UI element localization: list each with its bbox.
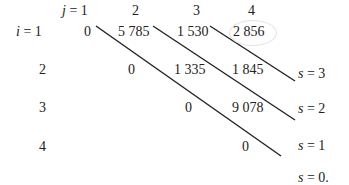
s-label-3: s = 3 bbox=[298, 66, 325, 82]
row-header-3: 3 bbox=[39, 100, 46, 116]
col-header-4: 4 bbox=[248, 3, 255, 19]
row-header-1: i = 1 bbox=[16, 24, 42, 40]
cell-1-3: 1 530 bbox=[177, 24, 209, 40]
row-1-label: 1 bbox=[35, 24, 42, 39]
row-header-2: 2 bbox=[39, 62, 46, 78]
s-var: s bbox=[298, 170, 303, 185]
col-header-1: j = 1 bbox=[62, 3, 88, 19]
s-var: s bbox=[298, 66, 303, 81]
s-label-0: s = 0. bbox=[298, 170, 329, 185]
col-header-2: 2 bbox=[132, 3, 139, 19]
col-1-label: 1 bbox=[81, 3, 88, 18]
s-value: 2 bbox=[318, 101, 325, 116]
col-header-3: 3 bbox=[193, 3, 200, 19]
col-var: j bbox=[62, 3, 66, 18]
cell-4-4: 0 bbox=[242, 139, 249, 155]
cell-2-3: 1 335 bbox=[174, 62, 206, 78]
cell-1-1: 0 bbox=[84, 24, 91, 40]
cell-1-2: 5 785 bbox=[118, 24, 150, 40]
s-value: 1 bbox=[318, 138, 325, 153]
s-var: s bbox=[298, 101, 303, 116]
s-var: s bbox=[298, 138, 303, 153]
diagonal-lines bbox=[0, 0, 349, 185]
row-var: i bbox=[16, 24, 20, 39]
cell-3-3: 0 bbox=[185, 100, 192, 116]
cell-1-4: 2 856 bbox=[233, 24, 265, 40]
s-label-2: s = 2 bbox=[298, 101, 325, 117]
cell-3-4: 9 078 bbox=[232, 100, 264, 116]
s-suffix: . bbox=[325, 170, 329, 185]
row-header-4: 4 bbox=[39, 139, 46, 155]
s-value: 3 bbox=[318, 66, 325, 81]
cell-2-4: 1 845 bbox=[232, 62, 264, 78]
cell-2-2: 0 bbox=[128, 62, 135, 78]
s-label-1: s = 1 bbox=[298, 138, 325, 154]
